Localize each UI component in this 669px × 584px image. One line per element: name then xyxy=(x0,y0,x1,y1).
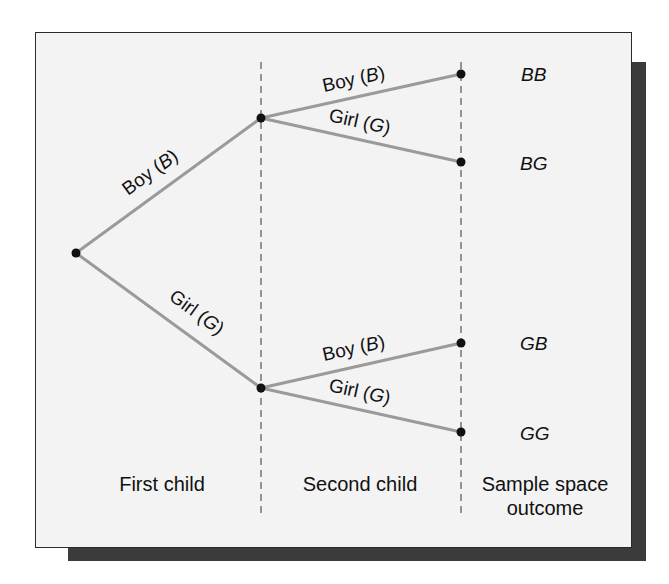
label-second-upper-boy: Boy (B) xyxy=(320,62,386,96)
node-leaf-gb xyxy=(457,339,466,348)
node-leaf-bg xyxy=(457,158,466,167)
outcome-gb: GB xyxy=(520,333,548,354)
label-first-boy: Boy (B) xyxy=(118,145,182,199)
node-leaf-gg xyxy=(457,428,466,437)
label-first-girl: Girl (G) xyxy=(166,285,229,339)
column-label-sample-space: Sample space xyxy=(482,473,609,495)
node-first-girl xyxy=(257,384,266,393)
column-label-outcome: outcome xyxy=(507,497,584,519)
tree-diagram: Boy (B) Girl (G) Boy (B) Girl (G) Boy (B… xyxy=(0,0,669,584)
branch-first-girl xyxy=(76,253,261,388)
node-first-boy xyxy=(257,114,266,123)
branch-first-boy xyxy=(76,118,261,253)
label-second-lower-boy: Boy (B) xyxy=(320,331,386,365)
node-root xyxy=(72,249,81,258)
outcome-bb: BB xyxy=(521,64,547,85)
column-label-first-child: First child xyxy=(119,473,205,495)
outcome-bg: BG xyxy=(520,153,547,174)
column-label-second-child: Second child xyxy=(303,473,418,495)
outcome-gg: GG xyxy=(520,423,550,444)
node-leaf-bb xyxy=(457,70,466,79)
